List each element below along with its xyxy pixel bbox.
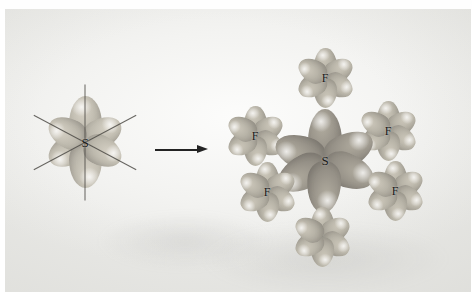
central-sulfur-lobe-6-surface: [306, 160, 342, 213]
central-sulfur-lobe-6: [306, 160, 342, 213]
ghost-caption-text: · · ·: [4, 0, 71, 3]
scan-top-edge: · · ·: [0, 0, 472, 9]
figure-photo-plate: SFFFFFFS: [5, 9, 471, 292]
